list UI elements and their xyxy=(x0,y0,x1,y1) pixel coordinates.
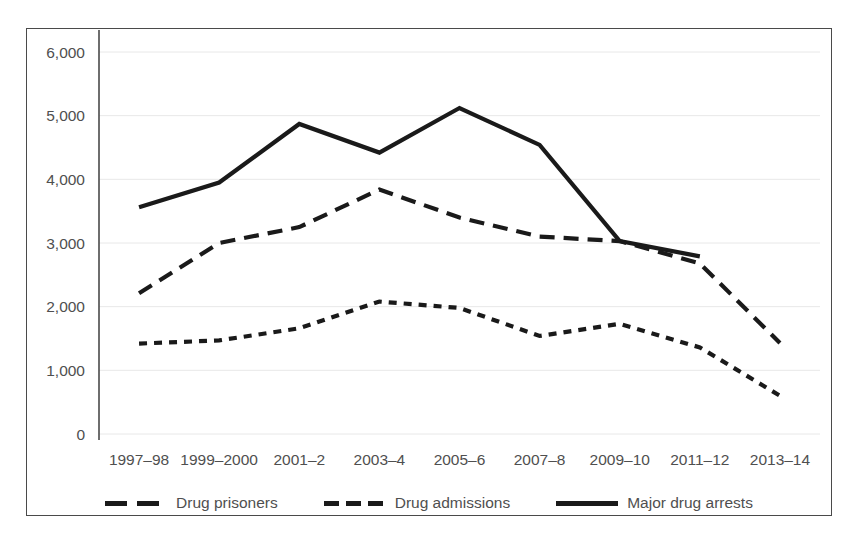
legend-swatch-dotted-dash-icon xyxy=(324,501,386,506)
legend-swatch-solid-icon xyxy=(556,501,618,506)
legend-label: Major drug arrests xyxy=(627,495,753,511)
legend-entry[interactable]: Drug admissions xyxy=(324,495,510,511)
legend-swatch-dashed-icon xyxy=(105,501,167,506)
legend-entry[interactable]: Major drug arrests xyxy=(556,495,753,511)
legend-entry[interactable]: Drug prisoners xyxy=(105,495,278,511)
chart-border-frame xyxy=(26,28,832,516)
chart-legend: Drug prisonersDrug admissionsMajor drug … xyxy=(26,487,832,519)
line-chart-figure: 01,0002,0003,0004,0005,0006,000 1997–981… xyxy=(0,0,858,555)
legend-label: Drug prisoners xyxy=(176,495,278,511)
legend-label: Drug admissions xyxy=(395,495,510,511)
